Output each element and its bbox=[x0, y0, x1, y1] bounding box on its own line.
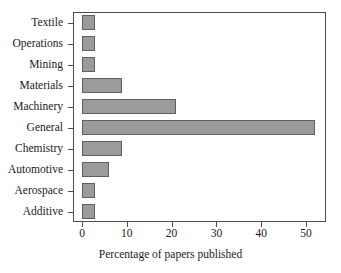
bar-mining[interactable] bbox=[82, 57, 95, 72]
bar-row bbox=[73, 54, 326, 75]
bar-general[interactable] bbox=[82, 120, 315, 135]
x-tick-label-40: 40 bbox=[255, 227, 267, 239]
bar-row bbox=[73, 117, 326, 138]
y-tick-label-materials: Materials bbox=[20, 75, 63, 96]
bar-row bbox=[73, 159, 326, 180]
y-tick-label-aerospace: Aerospace bbox=[14, 180, 63, 201]
y-tick-label-general: General bbox=[27, 117, 63, 138]
y-tick-label-automotive: Automotive bbox=[8, 159, 63, 180]
bar-textile[interactable] bbox=[82, 15, 95, 30]
bar-machinery[interactable] bbox=[82, 99, 176, 114]
x-axis-title: Percentage of papers published bbox=[0, 248, 341, 260]
bar-row bbox=[73, 138, 326, 159]
bar-row bbox=[73, 201, 326, 222]
x-tick-label-10: 10 bbox=[121, 227, 133, 239]
y-tick-label-chemistry: Chemistry bbox=[15, 138, 63, 159]
x-tick-label-30: 30 bbox=[211, 227, 223, 239]
y-tick-label-textile: Textile bbox=[31, 12, 63, 33]
bar-row bbox=[73, 75, 326, 96]
bar-chart: TextileOperationsMiningMaterialsMachiner… bbox=[0, 0, 341, 273]
bar-chemistry[interactable] bbox=[82, 141, 122, 156]
x-tick-label-0: 0 bbox=[79, 227, 85, 239]
bar-row bbox=[73, 12, 326, 33]
x-tick-label-50: 50 bbox=[300, 227, 312, 239]
bar-row bbox=[73, 33, 326, 54]
y-tick-label-mining: Mining bbox=[29, 54, 63, 75]
bar-additive[interactable] bbox=[82, 204, 95, 219]
x-axis: 01020304050 bbox=[73, 222, 326, 246]
bar-automotive[interactable] bbox=[82, 162, 109, 177]
y-tick-label-machinery: Machinery bbox=[13, 96, 63, 117]
y-axis: TextileOperationsMiningMaterialsMachiner… bbox=[0, 12, 73, 222]
y-tick-label-additive: Additive bbox=[23, 201, 63, 222]
bar-row bbox=[73, 180, 326, 201]
bars-container bbox=[73, 12, 326, 222]
x-tick-label-20: 20 bbox=[166, 227, 178, 239]
bar-aerospace[interactable] bbox=[82, 183, 95, 198]
bar-materials[interactable] bbox=[82, 78, 122, 93]
y-tick-label-operations: Operations bbox=[13, 33, 63, 54]
bar-operations[interactable] bbox=[82, 36, 95, 51]
bar-row bbox=[73, 96, 326, 117]
